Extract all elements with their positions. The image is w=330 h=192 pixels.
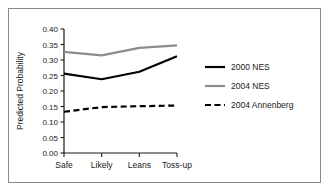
x-tick-label: Leans	[128, 160, 151, 170]
y-tick-label: 0.25	[42, 72, 58, 81]
y-tick-label: 0.15	[42, 103, 58, 112]
y-tick-label: 0.10	[42, 118, 58, 127]
chart-frame: 0.000.050.100.150.200.250.300.350.40 Saf…	[8, 8, 321, 183]
legend-label-1: 2004 NES	[231, 81, 270, 91]
data-series-group	[64, 45, 177, 111]
y-axis-tick-labels: 0.000.050.100.150.200.250.300.350.40	[42, 25, 58, 158]
y-tick-label: 0.20	[42, 87, 58, 96]
x-tick-label: Toss-up	[162, 160, 192, 170]
x-tick-label: Likely	[91, 160, 113, 170]
y-axis-title: Predicted Probability	[15, 51, 25, 130]
y-tick-label: 0.00	[42, 149, 58, 158]
x-tick-label: Safe	[55, 160, 73, 170]
series-line-2	[64, 106, 177, 112]
x-axis-ticks	[64, 153, 177, 157]
series-line-0	[64, 56, 177, 79]
chart-legend: 2000 NES2004 NES2004 Annenberg	[205, 62, 294, 110]
y-tick-label: 0.35	[42, 41, 58, 50]
y-tick-label: 0.30	[42, 56, 58, 65]
series-line-1	[64, 45, 177, 55]
x-axis-category-labels: SafeLikelyLeansToss-up	[55, 160, 192, 170]
y-tick-label: 0.40	[42, 25, 58, 34]
y-tick-label: 0.05	[42, 134, 58, 143]
legend-label-0: 2000 NES	[231, 62, 270, 72]
line-chart: 0.000.050.100.150.200.250.300.350.40 Saf…	[9, 9, 320, 182]
legend-label-2: 2004 Annenberg	[231, 100, 294, 110]
figure-container: 0.000.050.100.150.200.250.300.350.40 Saf…	[0, 0, 330, 192]
